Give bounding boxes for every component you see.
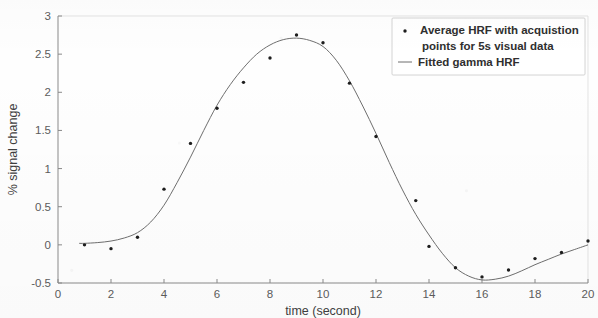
x-axis-title: time (second): [285, 304, 361, 318]
x-tick-label: 12: [370, 288, 383, 300]
y-tick-label: 1: [45, 163, 51, 175]
hrf-chart: 02468101214161820 -0.500.511.522.53 time…: [0, 0, 598, 318]
y-tick-label: 3: [45, 10, 51, 22]
data-point: [480, 275, 483, 278]
data-point: [295, 33, 298, 36]
data-point: [321, 41, 324, 44]
x-tick-label: 6: [214, 288, 220, 300]
y-tick-label: 1.5: [35, 124, 51, 136]
data-point: [242, 81, 245, 84]
data-point: [454, 266, 457, 269]
legend-label-average-hrf-line1: Average HRF with acquistion: [420, 24, 579, 36]
y-axis-ticks: -0.500.511.522.53: [31, 10, 62, 289]
legend-label-average-hrf-line2: points for 5s visual data: [422, 40, 554, 52]
x-axis-ticks: 02468101214161820: [55, 279, 595, 300]
data-point: [83, 243, 86, 246]
figure-canvas: 02468101214161820 -0.500.511.522.53 time…: [0, 0, 598, 318]
x-tick-label: 0: [55, 288, 61, 300]
y-axis-title: % signal change: [6, 104, 20, 196]
data-point: [414, 199, 417, 202]
data-point: [136, 236, 139, 239]
data-point: [348, 81, 351, 84]
y-tick-label: 0: [45, 239, 51, 251]
x-tick-label: 8: [267, 288, 273, 300]
x-tick-label: 14: [423, 288, 436, 300]
data-point: [586, 239, 589, 242]
data-point: [215, 107, 218, 110]
data-point: [374, 135, 377, 138]
y-tick-label: 2: [45, 86, 51, 98]
x-tick-label: 4: [161, 288, 168, 300]
y-tick-label: -0.5: [31, 277, 51, 289]
legend: Average HRF with acquistion points for 5…: [392, 18, 585, 75]
data-point: [268, 56, 271, 59]
x-tick-label: 20: [582, 288, 595, 300]
data-point: [533, 257, 536, 260]
data-point: [560, 251, 563, 254]
legend-marker-dot: [403, 29, 406, 32]
data-point: [507, 268, 510, 271]
y-tick-label: 2.5: [35, 48, 51, 60]
data-point: [427, 245, 430, 248]
data-point: [189, 142, 192, 145]
x-tick-label: 16: [476, 288, 489, 300]
x-tick-label: 10: [317, 288, 330, 300]
y-tick-label: 0.5: [35, 201, 51, 213]
data-point: [109, 247, 112, 250]
data-point: [162, 187, 165, 190]
x-tick-label: 18: [529, 288, 542, 300]
x-tick-label: 2: [108, 288, 114, 300]
legend-label-fitted-gamma-hrf: Fitted gamma HRF: [418, 56, 520, 68]
